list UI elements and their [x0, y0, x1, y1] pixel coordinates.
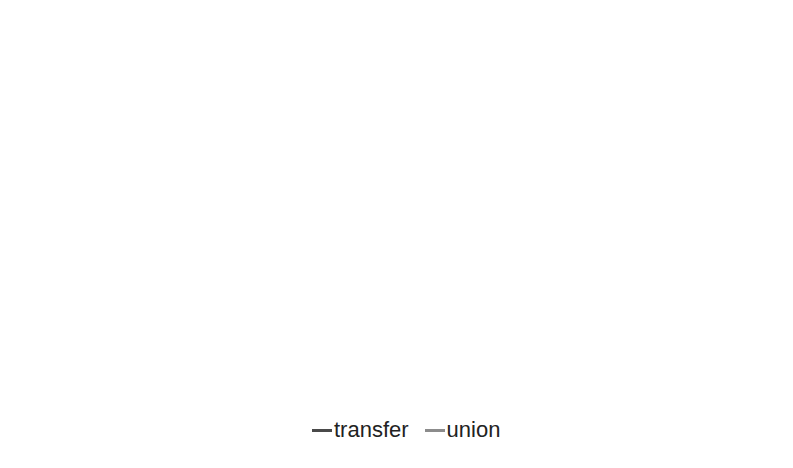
legend-item-transfer: transfer	[312, 417, 409, 443]
chart-legend: transfer union	[312, 417, 516, 443]
transfer-line-swatch-icon	[312, 429, 332, 432]
legend-label-union: union	[447, 417, 501, 443]
legend-label-transfer: transfer	[334, 417, 409, 443]
legend-item-union: union	[425, 417, 501, 443]
union-line-swatch-icon	[425, 429, 445, 432]
